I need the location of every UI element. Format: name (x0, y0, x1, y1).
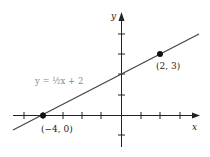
line-graph: (−4, 0) (2, 3) y = ½x + 2 x y (0, 0, 210, 157)
y-axis-label: y (110, 11, 117, 21)
point-b-label: (2, 3) (156, 61, 180, 71)
point-b-marker (157, 51, 163, 57)
x-axis-arrow-icon (192, 113, 200, 119)
point-a-marker (40, 113, 46, 119)
equation-label: y = ½x + 2 (34, 76, 83, 86)
y-axis-arrow-icon (119, 12, 125, 21)
x-axis-label: x (192, 122, 197, 132)
y-axis (118, 12, 125, 147)
point-a-label: (−4, 0) (41, 124, 73, 134)
